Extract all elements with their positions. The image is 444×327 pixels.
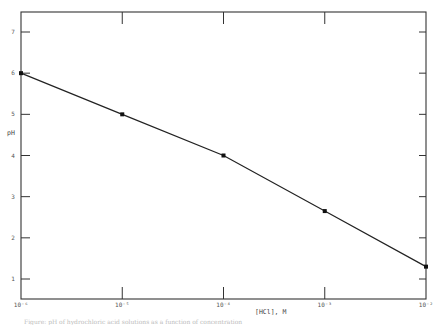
x-tick-label: 10⁻³ bbox=[318, 301, 332, 308]
data-point-marker bbox=[19, 71, 23, 75]
data-point-marker bbox=[120, 112, 124, 116]
ph-chart: 1234567 10⁻⁶10⁻⁵10⁻⁴10⁻³10⁻² pH [HCl], M bbox=[0, 0, 444, 327]
data-point-marker bbox=[424, 265, 428, 269]
y-tick-label: 6 bbox=[11, 69, 15, 76]
y-tick-label: 3 bbox=[11, 193, 15, 200]
y-tick-label: 2 bbox=[11, 234, 15, 241]
x-axis-ticks: 10⁻⁶10⁻⁵10⁻⁴10⁻³10⁻² bbox=[14, 12, 433, 308]
x-axis-label: [HCl], M bbox=[255, 308, 286, 316]
x-tick-label: 10⁻⁶ bbox=[14, 301, 28, 308]
y-tick-label: 5 bbox=[11, 110, 15, 117]
y-tick-label: 7 bbox=[11, 28, 15, 35]
data-point-marker bbox=[323, 209, 327, 213]
x-tick-label: 10⁻⁴ bbox=[216, 301, 230, 308]
y-tick-label: 4 bbox=[11, 152, 15, 159]
data-series bbox=[19, 71, 428, 268]
figure-caption: Figure: pH of hydrochloric acid solution… bbox=[24, 318, 434, 325]
x-tick-label: 10⁻² bbox=[419, 301, 433, 308]
y-axis-ticks: 1234567 bbox=[11, 28, 426, 282]
y-tick-label: 1 bbox=[11, 275, 15, 282]
series-line bbox=[21, 73, 426, 266]
y-axis-label: pH bbox=[7, 129, 15, 137]
data-point-marker bbox=[222, 154, 226, 158]
x-tick-label: 10⁻⁵ bbox=[115, 301, 129, 308]
